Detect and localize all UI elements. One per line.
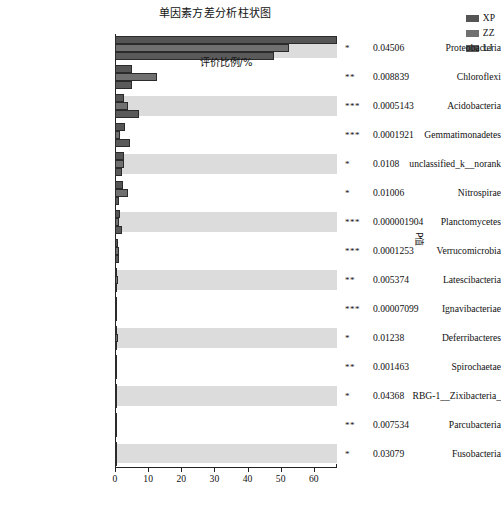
x-tick (214, 468, 215, 472)
p-value: 0.0005143 (373, 100, 414, 111)
bar-zz[interactable] (115, 363, 117, 371)
bar-zz[interactable] (115, 131, 120, 139)
bar-lj[interactable] (115, 400, 117, 408)
bar-lj[interactable] (115, 197, 119, 205)
bar-xp[interactable] (115, 355, 117, 363)
bar-xp[interactable] (115, 413, 117, 421)
bar-lj[interactable] (115, 284, 117, 292)
p-value: 0.001463 (373, 361, 409, 372)
bar-zz[interactable] (115, 247, 119, 255)
significance-marker: *** (345, 101, 371, 111)
bar-zz[interactable] (115, 218, 119, 226)
legend-label-xp: XP (483, 14, 495, 23)
bar-zz[interactable] (115, 334, 118, 342)
significance-marker: * (345, 43, 371, 53)
x-tick-label: 60 (309, 473, 319, 484)
bar-xp[interactable] (115, 442, 117, 450)
bar-lj[interactable] (115, 342, 117, 350)
x-tick-label: 50 (276, 473, 286, 484)
significance-marker: * (345, 449, 371, 459)
bar-row[interactable] (115, 410, 337, 439)
category-label: RBG-1__Zixibacteria_ (389, 390, 501, 401)
bar-row[interactable] (115, 121, 337, 150)
significance-marker: *** (345, 304, 371, 314)
bar-zz[interactable] (115, 276, 118, 284)
p-value: 0.0001921 (373, 129, 414, 140)
bar-row[interactable] (115, 352, 337, 381)
bar-row[interactable] (115, 150, 337, 179)
bar-zz[interactable] (115, 44, 289, 52)
bar-zz[interactable] (115, 189, 128, 197)
bar-lj[interactable] (115, 110, 139, 118)
chart-root: 单因素方差分析柱状图 XP ZZ LJ 0102030405060 评价比例/%… (0, 0, 501, 518)
bar-row[interactable] (115, 265, 337, 294)
category-label: Fusobacteria (389, 448, 501, 459)
bar-zz[interactable] (115, 421, 117, 429)
bar-xp[interactable] (115, 268, 117, 276)
bar-xp[interactable] (115, 123, 125, 131)
bar-lj[interactable] (115, 429, 117, 437)
x-tick (314, 468, 315, 472)
bar-xp[interactable] (115, 384, 117, 392)
bar-lj[interactable] (115, 226, 122, 234)
significance-marker: * (345, 159, 371, 169)
bar-lj[interactable] (115, 371, 117, 379)
bar-zz[interactable] (115, 160, 124, 168)
bar-lj[interactable] (115, 168, 122, 176)
significance-marker: ** (345, 72, 371, 82)
bar-zz[interactable] (115, 102, 128, 110)
bar-row[interactable] (115, 381, 337, 410)
bar-lj[interactable] (115, 139, 130, 147)
bar-xp[interactable] (115, 36, 337, 44)
bar-row[interactable] (115, 179, 337, 208)
bar-lj[interactable] (115, 255, 119, 263)
bar-xp[interactable] (115, 181, 123, 189)
bar-lj[interactable] (115, 313, 117, 321)
bar-row[interactable] (115, 323, 337, 352)
bar-row[interactable] (115, 237, 337, 266)
p-value: 0.007534 (373, 419, 409, 430)
bar-xp[interactable] (115, 94, 124, 102)
x-tick (148, 468, 149, 472)
bar-row[interactable] (115, 294, 337, 323)
bar-lj[interactable] (115, 81, 132, 89)
significance-marker: * (345, 188, 371, 198)
x-tick-label: 30 (210, 473, 220, 484)
significance-marker: *** (345, 246, 371, 256)
bar-xp[interactable] (115, 326, 117, 334)
bar-lj[interactable] (115, 458, 117, 466)
bar-zz[interactable] (115, 305, 117, 313)
bar-zz[interactable] (115, 392, 117, 400)
bar-row[interactable] (115, 208, 337, 237)
bar-zz[interactable] (115, 73, 157, 81)
legend-item-xp[interactable]: XP (466, 14, 495, 23)
bar-xp[interactable] (115, 239, 118, 247)
bar-row[interactable] (115, 92, 337, 121)
category-label: Deferribacteres (389, 332, 501, 343)
p-value: 0.03079 (373, 448, 404, 459)
p-value: 0.005374 (373, 274, 409, 285)
bar-xp[interactable] (115, 297, 117, 305)
p-value: 0.000001904 (373, 216, 423, 227)
chart-title: 单因素方差分析柱状图 (0, 4, 430, 20)
bar-row[interactable] (115, 439, 337, 468)
x-tick (248, 468, 249, 472)
legend-swatch-zz (466, 30, 479, 37)
p-value: 0.0108 (373, 158, 399, 169)
legend-swatch-xp (466, 15, 479, 22)
bar-xp[interactable] (115, 152, 124, 160)
legend-item-zz[interactable]: ZZ (466, 29, 495, 38)
x-tick (181, 468, 182, 472)
plot-area: 0102030405060 评价比例/% (115, 34, 337, 468)
p-value: 0.00007099 (373, 303, 419, 314)
bar-xp[interactable] (115, 210, 120, 218)
significance-marker: ** (345, 362, 371, 372)
significance-marker: ** (345, 420, 371, 430)
significance-marker: * (345, 333, 371, 343)
bar-zz[interactable] (115, 450, 117, 458)
p-value: 0.04368 (373, 390, 404, 401)
significance-marker: ** (345, 275, 371, 285)
p-value: 0.01238 (373, 332, 404, 343)
p-value-axis-title: P值 (413, 232, 426, 246)
x-tick-label: 0 (113, 473, 118, 484)
